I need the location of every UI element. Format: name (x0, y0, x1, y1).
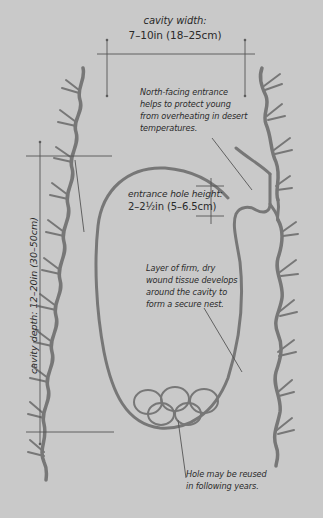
note-line: form a secure nest. (146, 298, 256, 310)
wound-tissue-note: Layer of firm, dry wound tissue develops… (146, 262, 256, 310)
eggs (134, 387, 218, 425)
entrance-height-label: entrance hole height: 2–2½in (5–6.5cm) (128, 188, 228, 213)
note-line: North-facing entrance (140, 86, 260, 98)
diagram-artwork (0, 0, 323, 518)
note-line: helps to protect young (140, 98, 260, 110)
note-line: wound tissue develops (146, 274, 256, 286)
note-line: Layer of firm, dry (146, 262, 256, 274)
note-line: from overheating in desert (140, 110, 260, 122)
note-line: in following years. (186, 480, 296, 492)
note-line: around the cavity to (146, 286, 256, 298)
nest-cavity-diagram: cavity width: 7–10in (18–25cm) North-fac… (0, 0, 323, 518)
note-line: Hole may be reused (186, 468, 296, 480)
note-line: temperatures. (140, 122, 260, 134)
cavity-width-value: 7–10in (18–25cm) (110, 28, 240, 42)
cavity-width-title: cavity width: (110, 14, 240, 28)
reuse-note: Hole may be reused in following years. (186, 468, 296, 492)
north-facing-note: North-facing entrance helps to protect y… (140, 86, 260, 134)
right-trunk (260, 68, 298, 466)
cavity-depth-label: cavity depth: 12–20in (30–50cm) (28, 206, 39, 386)
cavity-width-label: cavity width: 7–10in (18–25cm) (110, 14, 240, 42)
entrance-height-value: 2–2½in (5–6.5cm) (128, 201, 228, 214)
entrance-height-title: entrance hole height: (128, 188, 228, 201)
